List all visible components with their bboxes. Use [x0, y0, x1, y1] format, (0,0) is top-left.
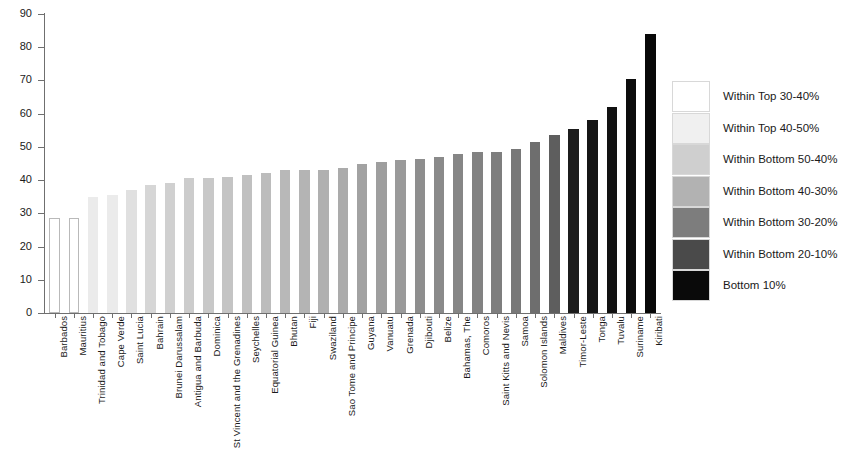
x-axis-label: Brunei Darussalam: [174, 316, 184, 398]
legend-label: Within Bottom 20-10%: [723, 239, 837, 270]
bar: [299, 170, 310, 313]
x-axis-label: Timor-Leste: [578, 316, 588, 367]
bar: [165, 183, 176, 313]
x-axis-label: Bahamas, The: [462, 316, 472, 379]
y-axis-tick-label: 30: [6, 207, 32, 218]
legend-item: Bottom 10%: [672, 270, 857, 302]
x-axis-label: Swaziland: [328, 316, 338, 360]
x-axis-label: Guyana: [366, 316, 376, 350]
legend-swatch: [672, 113, 710, 144]
x-axis-tick: [612, 314, 613, 318]
bar: [568, 129, 579, 313]
x-axis-tick: [151, 314, 152, 318]
y-axis-tick-label: 50: [6, 141, 32, 152]
bar: [88, 197, 99, 313]
bar: [434, 157, 445, 313]
x-axis-labels: BarbadosMauritiusTrinidad and TobagoCape…: [45, 316, 660, 474]
x-axis-tick: [228, 314, 229, 318]
bar: [357, 164, 368, 314]
chart-legend: Within Top 30-40%Within Top 40-50%Within…: [672, 81, 857, 302]
y-axis-tick: [38, 147, 44, 148]
x-axis-tick: [401, 314, 402, 318]
bar-chart: 0102030405060708090 BarbadosMauritiusTri…: [0, 0, 861, 475]
x-axis-label: Comoros: [481, 316, 491, 355]
x-axis-tick: [554, 314, 555, 318]
x-axis-label: Bahrain: [155, 316, 165, 349]
legend-label: Within Top 30-40%: [723, 81, 819, 112]
y-axis-tick: [38, 247, 44, 248]
legend-swatch: [672, 81, 710, 112]
bar-series: [45, 14, 660, 313]
x-axis-label: Grenada: [405, 316, 415, 354]
y-axis-tick: [38, 114, 44, 115]
legend-label: Within Bottom 50-40%: [723, 144, 837, 175]
bar: [126, 190, 137, 313]
x-axis-label: Bhutan: [289, 316, 299, 347]
x-axis-tick: [189, 314, 190, 318]
x-axis-tick: [55, 314, 56, 318]
y-axis-tick-label: 0: [6, 307, 32, 318]
y-axis-tick-label: 60: [6, 108, 32, 119]
y-axis-tick: [38, 14, 44, 15]
x-axis-label: Kiribati: [654, 316, 664, 346]
x-axis-tick: [285, 314, 286, 318]
x-axis-label: Saint Lucia: [135, 316, 145, 364]
legend-swatch: [672, 270, 710, 301]
x-axis-tick: [497, 314, 498, 318]
y-axis-tick: [38, 47, 44, 48]
x-axis-label: Samoa: [520, 316, 530, 347]
y-axis-tick-label: 70: [6, 74, 32, 85]
x-axis-tick: [477, 314, 478, 318]
x-axis-label: Sao Tome and Principe: [347, 316, 357, 416]
x-axis-label: Saint Kitts and Nevis: [501, 316, 511, 406]
legend-item: Within Bottom 40-30%: [672, 176, 857, 208]
bar: [530, 142, 541, 313]
x-axis-label: Mauritius: [78, 316, 88, 355]
x-axis-tick: [593, 314, 594, 318]
bar: [49, 218, 60, 313]
bar: [607, 107, 618, 313]
x-axis-label: Trinidad and Tobago: [97, 316, 107, 404]
x-axis-tick: [650, 314, 651, 318]
legend-swatch: [672, 176, 710, 207]
y-axis-tick-label: 90: [6, 8, 32, 19]
bar: [511, 149, 522, 313]
x-axis-label: Maldives: [558, 316, 568, 354]
x-axis-label: Seychelles: [251, 316, 261, 363]
y-axis-tick: [38, 280, 44, 281]
bar: [376, 162, 387, 313]
x-axis-label: Suriname: [635, 316, 645, 357]
y-axis-tick: [38, 213, 44, 214]
bar: [222, 177, 233, 313]
x-axis-tick: [247, 314, 248, 318]
bar: [472, 152, 483, 313]
x-axis-label: Barbados: [59, 316, 69, 357]
legend-label: Within Bottom 40-30%: [723, 176, 837, 207]
x-axis-label: Antigua and Barbuda: [193, 316, 203, 407]
bar: [626, 79, 637, 313]
y-axis-tick-label: 10: [6, 274, 32, 285]
x-axis-label: Cape Verde: [116, 316, 126, 367]
bar: [242, 175, 253, 313]
x-axis-tick: [93, 314, 94, 318]
legend-item: Within Top 30-40%: [672, 81, 857, 113]
legend-item: Within Top 40-50%: [672, 113, 857, 145]
x-axis-tick: [574, 314, 575, 318]
x-axis-tick: [304, 314, 305, 318]
x-axis-label: Solomon Islands: [539, 316, 549, 388]
x-axis-tick: [266, 314, 267, 318]
y-axis-tick-label: 20: [6, 241, 32, 252]
bar: [415, 159, 426, 313]
x-axis-tick: [420, 314, 421, 318]
legend-label: Within Bottom 30-20%: [723, 207, 837, 238]
bar: [203, 178, 214, 313]
bar: [453, 154, 464, 313]
x-axis-tick: [458, 314, 459, 318]
x-axis-tick: [381, 314, 382, 318]
bar: [318, 170, 329, 313]
x-axis-label: Belize: [443, 316, 453, 342]
legend-swatch: [672, 207, 710, 238]
y-axis-tick-label: 80: [6, 41, 32, 52]
legend-item: Within Bottom 20-10%: [672, 239, 857, 271]
bar: [395, 160, 406, 313]
